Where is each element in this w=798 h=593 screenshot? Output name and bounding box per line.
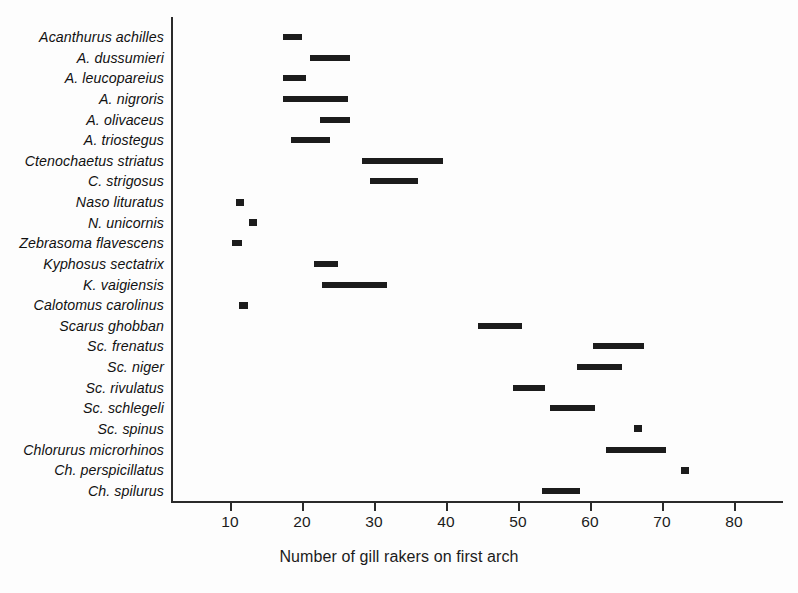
x-tick (374, 503, 376, 511)
range-bar (606, 447, 666, 453)
range-bar (593, 343, 644, 349)
range-bar (239, 302, 248, 309)
x-tick (302, 503, 304, 511)
species-label: Scarus ghobban (59, 317, 164, 335)
species-label: A. leucopareius (65, 69, 164, 87)
species-row: Sc. spinus (0, 420, 798, 438)
species-row: Sc. schlegeli (0, 399, 798, 417)
range-bar (370, 178, 418, 184)
species-row: Acanthurus achilles (0, 28, 798, 46)
range-bar (322, 282, 387, 288)
x-tick (230, 503, 232, 511)
species-row: A. olivaceus (0, 111, 798, 129)
range-bar (283, 75, 306, 81)
range-bar (362, 158, 443, 164)
species-row: Ch. spilurus (0, 482, 798, 500)
species-row: A. dussumieri (0, 49, 798, 67)
species-row: Chlorurus microrhinos (0, 441, 798, 459)
x-tick (446, 503, 448, 511)
species-label: Kyphosus sectatrix (43, 255, 164, 273)
species-row: Sc. niger (0, 358, 798, 376)
species-row: Calotomus carolinus (0, 296, 798, 314)
species-row: A. nigroris (0, 90, 798, 108)
species-label: Ch. spilurus (88, 482, 164, 500)
gill-raker-range-chart: Acanthurus achillesA. dussumieriA. leuco… (0, 0, 798, 593)
range-bar (542, 488, 580, 494)
x-tick (590, 503, 592, 511)
range-bar (550, 405, 595, 411)
species-row: Sc. frenatus (0, 337, 798, 355)
species-row: C. strigosus (0, 172, 798, 190)
range-bar (320, 117, 350, 123)
species-row: N. unicornis (0, 214, 798, 232)
range-bar (577, 364, 622, 370)
species-row: A. leucopareius (0, 69, 798, 87)
x-tick-label: 60 (567, 513, 613, 531)
species-label: Sc. spinus (98, 420, 164, 438)
species-label: Naso lituratus (76, 193, 164, 211)
range-bar (634, 425, 642, 432)
species-row: Naso lituratus (0, 193, 798, 211)
x-tick-label: 40 (423, 513, 469, 531)
species-row: A. triostegus (0, 131, 798, 149)
species-label: Zebrasoma flavescens (19, 234, 164, 252)
x-tick-label: 80 (711, 513, 757, 531)
species-label: A. dussumieri (77, 49, 164, 67)
species-row: K. vaigiensis (0, 276, 798, 294)
range-bar (310, 55, 350, 61)
range-bar (291, 137, 330, 143)
species-label: K. vaigiensis (83, 276, 164, 294)
x-axis-title: Number of gill rakers on first arch (0, 548, 798, 566)
x-tick-label: 30 (351, 513, 397, 531)
species-label: Chlorurus microrhinos (23, 441, 164, 459)
species-label: A. nigroris (99, 90, 164, 108)
species-label: Sc. niger (107, 358, 164, 376)
species-row: Sc. rivulatus (0, 379, 798, 397)
x-tick (518, 503, 520, 511)
species-label: Sc. rivulatus (85, 379, 164, 397)
range-bar (232, 240, 242, 246)
species-label: A. olivaceus (86, 111, 164, 129)
species-label: C. strigosus (88, 172, 164, 190)
species-label: Calotomus carolinus (34, 296, 164, 314)
species-label: A. triostegus (84, 131, 164, 149)
species-row: Scarus ghobban (0, 317, 798, 335)
x-tick-label: 20 (279, 513, 325, 531)
range-bar (249, 219, 258, 226)
x-tick-label: 70 (639, 513, 685, 531)
species-row: Zebrasoma flavescens (0, 234, 798, 252)
range-bar (513, 385, 545, 391)
species-row: Ch. perspicillatus (0, 461, 798, 479)
range-bar (314, 261, 338, 267)
species-label: Sc. frenatus (87, 337, 164, 355)
range-bar (478, 323, 522, 329)
species-label: N. unicornis (88, 214, 164, 232)
species-label: Acanthurus achilles (39, 28, 164, 46)
range-bar (681, 467, 690, 474)
x-tick (734, 503, 736, 511)
x-tick (662, 503, 664, 511)
range-bar (236, 199, 244, 206)
species-label: Sc. schlegeli (83, 399, 164, 417)
species-label: Ch. perspicillatus (54, 461, 164, 479)
species-row: Ctenochaetus striatus (0, 152, 798, 170)
x-axis-line (171, 501, 783, 503)
species-label: Ctenochaetus striatus (25, 152, 164, 170)
species-row: Kyphosus sectatrix (0, 255, 798, 273)
x-tick-label: 10 (207, 513, 253, 531)
x-tick-label: 50 (495, 513, 541, 531)
range-bar (283, 34, 302, 40)
range-bar (283, 96, 348, 102)
